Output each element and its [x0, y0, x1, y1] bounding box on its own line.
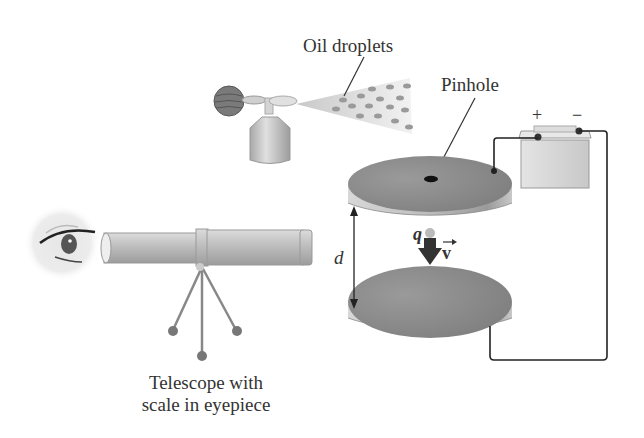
telescope-caption: Telescope with scale in eyepiece — [120, 372, 292, 416]
pinhole — [424, 176, 438, 182]
separation-indicator: d — [334, 206, 358, 309]
telescope-caption-line1: Telescope with — [120, 372, 292, 394]
oil-droplets-label: Oil droplets — [303, 35, 393, 56]
battery-positive-terminal — [535, 134, 542, 141]
separation-label: d — [334, 247, 344, 268]
tripod-foot-left — [168, 326, 178, 336]
charge-label: q — [413, 224, 422, 244]
battery-minus-label: − — [572, 105, 582, 125]
battery-plus-label: + — [532, 105, 542, 125]
oil-spray — [296, 78, 413, 134]
battery: + − — [519, 105, 591, 188]
bottom-plate — [348, 266, 512, 338]
telescope-caption-line2: scale in eyepiece — [120, 394, 292, 416]
oil-drop-diagram: Oil droplets Pinhole d q v — [0, 0, 644, 438]
charged-droplet — [425, 228, 435, 238]
velocity-label: v — [442, 243, 451, 263]
pinhole-label: Pinhole — [441, 74, 499, 95]
droplet-charge: q v — [413, 224, 457, 265]
tripod-foot-center — [197, 351, 207, 361]
atomizer — [214, 86, 297, 164]
tripod-foot-right — [232, 326, 242, 336]
top-plate — [348, 156, 512, 215]
telescope — [101, 229, 312, 361]
atomizer-bottle — [250, 117, 290, 164]
observer-eye — [24, 205, 100, 281]
